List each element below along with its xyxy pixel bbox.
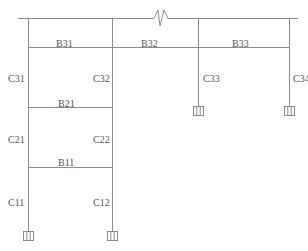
beam-label-B21: B21 <box>58 99 75 109</box>
support-icon-C33 <box>194 107 204 116</box>
column-label-C32: C32 <box>93 74 110 84</box>
column-label-C22: C22 <box>93 135 110 145</box>
column-label-C33: C33 <box>203 74 220 84</box>
column-label-C12: C12 <box>93 198 110 208</box>
roof-line <box>18 10 298 26</box>
beam-label-B32: B32 <box>141 39 158 49</box>
column-label-C11: C11 <box>8 198 24 208</box>
beam-label-B31: B31 <box>56 39 73 49</box>
support-icon-C11 <box>24 232 34 241</box>
support-icon-C12 <box>108 232 118 241</box>
column-label-C31: C31 <box>8 74 25 84</box>
beam-label-B33: B33 <box>232 39 249 49</box>
support-icon-C34 <box>285 107 295 116</box>
column-label-C34: C34 <box>293 74 308 84</box>
column-label-C21: C21 <box>8 135 25 145</box>
beam-label-B11: B11 <box>58 158 74 168</box>
